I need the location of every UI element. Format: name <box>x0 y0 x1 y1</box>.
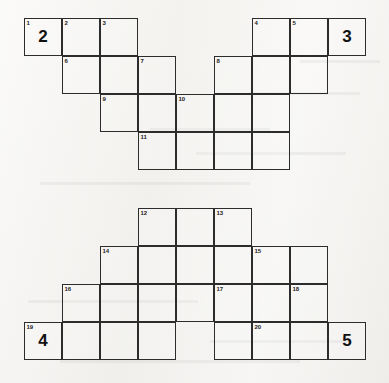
cell-r2c3[interactable] <box>138 94 176 132</box>
cell-number: 14 <box>103 248 110 255</box>
cell-r0c6[interactable]: 4 <box>252 18 290 56</box>
cell-r2c4[interactable]: 10 <box>176 94 214 132</box>
cell-r0c8-answer[interactable]: 3 <box>328 18 366 56</box>
cell-answer: 5 <box>329 323 365 359</box>
cell-r1c5[interactable]: 8 <box>214 56 252 94</box>
cell-r1c3[interactable]: 7 <box>138 56 176 94</box>
cell-r5c5[interactable]: 13 <box>214 208 252 246</box>
cell-r8c0[interactable]: 194 <box>24 322 62 360</box>
cell-number: 5 <box>293 20 296 27</box>
cell-r6c7[interactable] <box>290 246 328 284</box>
cell-r8c1[interactable] <box>62 322 100 360</box>
cell-answer: 2 <box>25 19 61 55</box>
cell-r7c4[interactable] <box>176 284 214 322</box>
cell-answer: 3 <box>329 19 365 55</box>
cell-r3c3[interactable]: 11 <box>138 132 176 170</box>
cell-number: 18 <box>293 286 300 293</box>
cell-r2c6[interactable] <box>252 94 290 132</box>
cell-number: 12 <box>141 210 148 217</box>
cell-r1c2[interactable] <box>100 56 138 94</box>
cell-r7c7[interactable]: 18 <box>290 284 328 322</box>
cell-r1c1[interactable]: 6 <box>62 56 100 94</box>
cell-r1c7[interactable] <box>290 56 328 94</box>
cell-r7c6[interactable] <box>252 284 290 322</box>
cell-r3c4[interactable] <box>176 132 214 170</box>
cell-r7c3[interactable] <box>138 284 176 322</box>
cell-number: 11 <box>141 134 147 141</box>
cell-r5c4[interactable] <box>176 208 214 246</box>
crossword-grid[interactable]: 12234567891011121314151617181942053 <box>0 0 389 383</box>
cell-r7c1[interactable]: 16 <box>62 284 100 322</box>
cell-r0c0[interactable]: 12 <box>24 18 62 56</box>
cell-r0c7[interactable]: 5 <box>290 18 328 56</box>
cell-r0c2[interactable]: 3 <box>100 18 138 56</box>
cell-answer: 4 <box>25 323 61 359</box>
cell-r7c5[interactable]: 17 <box>214 284 252 322</box>
cell-r6c6[interactable]: 15 <box>252 246 290 284</box>
cell-number: 4 <box>255 20 258 27</box>
cell-number: 6 <box>65 58 68 65</box>
cell-r2c2[interactable]: 9 <box>100 94 138 132</box>
cell-number: 20 <box>255 324 262 331</box>
cell-number: 16 <box>65 286 72 293</box>
cell-r8c3[interactable] <box>138 322 176 360</box>
cell-r5c3[interactable]: 12 <box>138 208 176 246</box>
cell-r8c8[interactable]: 5 <box>328 322 366 360</box>
cell-r8c5[interactable] <box>214 322 252 360</box>
cell-r6c5[interactable] <box>214 246 252 284</box>
cell-r3c6[interactable] <box>252 132 290 170</box>
cell-number: 15 <box>255 248 262 255</box>
cell-r6c2[interactable]: 14 <box>100 246 138 284</box>
cell-r6c4[interactable] <box>176 246 214 284</box>
cell-r8c7[interactable] <box>290 322 328 360</box>
cell-number: 10 <box>179 96 186 103</box>
cell-number: 9 <box>103 96 106 103</box>
cell-number: 17 <box>217 286 224 293</box>
cell-number: 7 <box>141 58 144 65</box>
cell-r2c5[interactable] <box>214 94 252 132</box>
cell-r8c6[interactable]: 20 <box>252 322 290 360</box>
cell-number: 13 <box>217 210 224 217</box>
cell-r3c5[interactable] <box>214 132 252 170</box>
cell-r7c2[interactable] <box>100 284 138 322</box>
cell-r8c2[interactable] <box>100 322 138 360</box>
cell-r6c3[interactable] <box>138 246 176 284</box>
cell-number: 3 <box>103 20 106 27</box>
cell-r1c6[interactable] <box>252 56 290 94</box>
cell-number: 2 <box>65 20 68 27</box>
cell-number: 8 <box>217 58 220 65</box>
cell-r0c1[interactable]: 2 <box>62 18 100 56</box>
